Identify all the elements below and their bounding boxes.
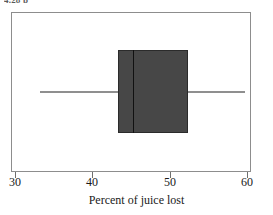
x-axis-tick-label: 40 [86,176,98,188]
whisker-left [40,91,118,93]
whisker-right [188,91,245,93]
box-iqr [118,50,188,133]
boxplot-figure: 30405060 Percent of juice lost [0,0,273,215]
x-axis-tick-label: 50 [164,176,176,188]
median-line [133,50,134,133]
x-axis-tick-label: 60 [241,176,253,188]
x-axis-title: Percent of juice lost [0,194,273,207]
x-axis-tick-label: 30 [9,176,21,188]
